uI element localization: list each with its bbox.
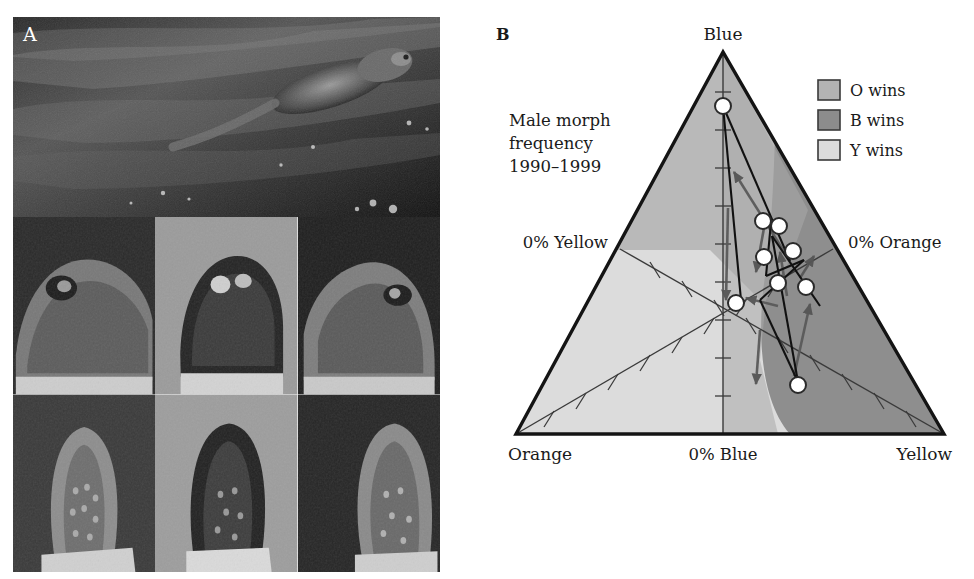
lizard-head-graphic — [298, 395, 440, 573]
data-point — [728, 295, 744, 311]
lizard-head-photo — [298, 217, 440, 395]
lizard-head-photo — [13, 217, 155, 395]
lizard-head-graphic — [155, 217, 297, 395]
lizard-head-graphic — [13, 395, 155, 573]
figure-root: A — [0, 0, 974, 579]
axis-label-blue: 0% Blue — [688, 445, 757, 464]
legend-label-b-wins: B wins — [850, 111, 904, 130]
data-point — [715, 98, 731, 114]
lizard-head-photo — [155, 217, 297, 395]
legend-swatch-y-wins — [818, 140, 840, 160]
vertex-label-yellow: Yellow — [896, 444, 953, 464]
data-point — [770, 275, 786, 291]
photo-habitat-lizard: A — [13, 17, 440, 217]
data-point — [756, 249, 772, 265]
lizard-head-graphic — [13, 217, 155, 395]
caption-block: Male morph frequency 1990–1999 — [509, 111, 611, 176]
lizard-head-photo — [155, 395, 297, 573]
panel-a-letter: A — [23, 23, 37, 45]
data-point — [755, 213, 771, 229]
data-point — [785, 243, 801, 259]
legend-label-o-wins: O wins — [850, 81, 906, 100]
legend: O wins B wins Y wins — [818, 80, 906, 160]
lizard-head-photo — [298, 395, 440, 573]
caption-line-1: Male morph — [509, 111, 611, 130]
lizard-head-grid — [13, 217, 440, 572]
axis-label-orange: 0% Orange — [848, 233, 942, 252]
vertex-label-blue: Blue — [704, 24, 743, 44]
lizard-head-graphic — [155, 395, 297, 573]
data-point — [798, 279, 814, 295]
panel-b-ternary-plot: B — [460, 0, 974, 579]
legend-swatch-o-wins — [818, 80, 840, 100]
data-point — [790, 377, 806, 393]
habitat-photo-graphic — [13, 17, 440, 217]
legend-label-y-wins: Y wins — [849, 141, 903, 160]
ternary-diagram: Blue Orange Yellow 0% Yellow 0% Orange 0… — [460, 0, 974, 579]
caption-line-2: frequency — [509, 134, 594, 153]
data-point — [771, 218, 787, 234]
axis-label-yellow: 0% Yellow — [523, 233, 608, 252]
panel-a-photo-composite: A — [13, 17, 440, 572]
lizard-head-graphic — [298, 217, 440, 395]
lizard-head-photo — [13, 395, 155, 573]
caption-line-3: 1990–1999 — [509, 157, 601, 176]
legend-swatch-b-wins — [818, 110, 840, 130]
vertex-label-orange: Orange — [508, 444, 572, 464]
